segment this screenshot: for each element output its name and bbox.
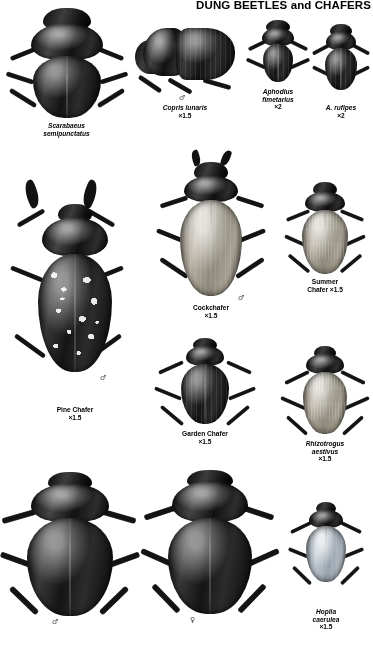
specimen-bottom-left-beetle: ♂: [0, 470, 140, 650]
scientific-name-line1: Rhizotrogus: [280, 440, 370, 448]
elytra-seam: [210, 518, 211, 614]
pronotum-icon: [186, 346, 224, 366]
sex-symbol-male: ♂: [52, 618, 58, 626]
scientific-name-line2: fimetarius: [240, 96, 316, 104]
elytra-icon: [33, 56, 101, 118]
elytra-seam: [75, 254, 76, 372]
leg-icon: [100, 72, 128, 84]
common-name: Pine Chafer: [10, 406, 140, 414]
leg-icon: [228, 387, 255, 400]
scientific-name-line1: Aphodius: [240, 88, 316, 96]
leg-icon: [9, 88, 37, 107]
beetle-illustration: [10, 176, 140, 416]
caption-pine-chafer: Pine Chafer ×1.5: [10, 406, 140, 421]
caption-garden-chafer: Garden Chafer ×1.5: [150, 430, 260, 445]
specimen-garden-chafer: Garden Chafer ×1.5: [150, 336, 260, 456]
caption-hoplia-caerulea: Hoplia caerulea ×1.5: [286, 608, 366, 631]
leg-icon: [98, 47, 124, 60]
leg-icon: [160, 405, 183, 425]
pronotum-icon: [172, 482, 248, 522]
leg-icon: [160, 196, 188, 208]
common-name-line2: Chafer ×1.5: [282, 286, 368, 294]
elytra-seam: [70, 518, 71, 616]
leg-icon: [290, 40, 307, 51]
elytra-seam: [326, 526, 327, 582]
leg-icon: [290, 521, 311, 533]
elytra-seam: [325, 372, 326, 434]
leg-icon: [154, 387, 181, 400]
elytra-icon: [263, 44, 293, 82]
leg-icon: [138, 75, 162, 93]
pronotum-icon: [31, 24, 103, 60]
magnification: ×2: [306, 112, 373, 120]
specimen-pine-chafer: ♂ Pine Chafer ×1.5: [10, 176, 140, 416]
elytra-icon: [302, 210, 348, 274]
specimen-aphodius-rufipes: A. rufipes ×2: [312, 20, 370, 130]
magnification: ×1.5: [150, 438, 260, 446]
magnification: ×1.5: [10, 414, 140, 422]
leg-icon: [236, 257, 265, 278]
scientific-name-line2: aestivus: [280, 448, 370, 456]
caption-cockchafer: Cockchafer ×1.5: [152, 304, 270, 319]
leg-icon: [6, 72, 34, 84]
leg-icon: [159, 361, 184, 374]
elytra-seam: [66, 56, 67, 118]
magnification: ×1.5: [280, 455, 370, 463]
scientific-name-line2: semipunctatus: [4, 130, 129, 138]
scientific-name-line1: Scarabaeus: [4, 122, 129, 130]
leg-icon: [341, 370, 366, 384]
common-name-line1: Summer: [282, 278, 368, 286]
magnification: ×1.5: [131, 112, 239, 120]
sex-symbol-male: ♂: [100, 374, 106, 382]
leg-icon: [17, 209, 45, 227]
leg-icon: [14, 334, 45, 358]
beetle-illustration: [246, 18, 310, 128]
sex-symbol-male: ♂: [179, 94, 185, 102]
elytra-icon: [175, 28, 235, 80]
figure-pine-chafer: ♂: [10, 176, 140, 416]
leg-icon: [2, 509, 36, 523]
elytra-seam: [341, 48, 342, 90]
sex-symbol-male: ♂: [238, 294, 244, 302]
leg-icon: [286, 416, 307, 436]
elytra-icon: [168, 518, 252, 614]
figure-cockchafer: ♂: [152, 148, 270, 328]
figure-bottom-left-beetle: ♂: [0, 470, 140, 650]
elytra-striae: [175, 28, 235, 80]
specimen-bottom-middle-beetle: ♀: [140, 470, 280, 650]
leg-icon: [340, 566, 359, 585]
pronotum-icon: [305, 192, 345, 212]
caption-scarabaeus-semipunctatus: Scarabaeus semipunctatus: [4, 122, 129, 137]
caption-aphodius-rufipes: A. rufipes ×2: [306, 104, 373, 119]
pronotum-icon: [306, 354, 344, 374]
caption-rhizotrogus-aestivus: Rhizotrogus aestivus ×1.5: [280, 440, 370, 463]
leg-icon: [292, 566, 311, 585]
elytra-icon: [180, 200, 242, 296]
common-name: Cockchafer: [152, 304, 270, 312]
elytra-icon: [306, 526, 346, 582]
caption-aphodius-fimetarius: Aphodius fimetarius ×2: [240, 88, 316, 111]
magnification: ×1.5: [286, 623, 366, 631]
beetle-illustration: [140, 470, 280, 650]
leg-icon: [227, 361, 252, 374]
specimen-aphodius-fimetarius: Aphodius fimetarius ×2: [246, 18, 310, 128]
pronotum-icon: [31, 484, 109, 522]
scientific-name-line2: caerulea: [286, 616, 366, 624]
specimen-hoplia-caerulea: Hoplia caerulea ×1.5: [286, 500, 366, 650]
page-title: DUNG BEETLES and CHAFERS: [196, 0, 371, 11]
leg-icon: [236, 196, 264, 208]
scientific-name-line1: Hoplia: [286, 608, 366, 616]
figure-bottom-middle-beetle: ♀: [140, 470, 280, 650]
elytra-icon: [27, 518, 113, 616]
elytra-seam: [325, 210, 326, 274]
antenna-icon: [21, 179, 43, 209]
leg-icon: [226, 405, 249, 425]
elytra-seam: [211, 200, 212, 296]
specimen-scarabaeus-semipunctatus: Scarabaeus semipunctatus: [4, 6, 129, 146]
leg-icon: [10, 266, 43, 282]
figure-aphodius-fimetarius: [246, 18, 310, 128]
elytra-seam: [205, 364, 206, 424]
common-name: Garden Chafer: [150, 430, 260, 438]
magnification: ×2: [240, 103, 316, 111]
elytra-icon: [303, 372, 347, 434]
